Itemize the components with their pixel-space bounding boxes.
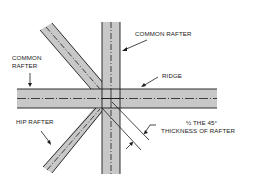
label-common-rafter-left-2: RAFTER [12, 62, 38, 69]
dimension-arrow [126, 125, 156, 149]
label-dimension-1: ½ THE 45° [186, 119, 218, 126]
label-ridge: RIDGE [162, 72, 182, 79]
rafter-diagram: COMMON RAFTER COMMON RAFTER RIDGE HIP RA… [0, 0, 263, 187]
label-common-rafter-top: COMMON RAFTER [135, 30, 192, 37]
label-hip-rafter: HIP RAFTER [16, 118, 54, 125]
label-common-rafter-left-1: COMMON [12, 54, 41, 61]
diagonal-common-rafter [40, 23, 109, 89]
label-dimension-2: THICKNESS OF RAFTER [161, 127, 236, 134]
ridge-member [17, 89, 217, 108]
